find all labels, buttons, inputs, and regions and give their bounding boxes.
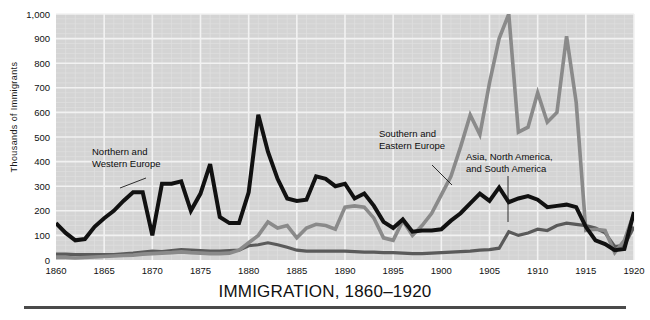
y-tick-label: 600 [34,107,50,118]
chart-plot-area: 01002003004005006007008009001,000 186018… [0,0,650,282]
annotation-text: Northern and [92,146,147,157]
x-tick-label: 1875 [190,265,211,276]
x-axis-ticks: 1860186518701875188018851890189519001905… [45,265,644,276]
y-tick-label: 100 [34,230,50,241]
x-tick-label: 1870 [142,265,163,276]
y-tick-label: 0 [45,255,50,266]
annotation-text: and South America [466,163,547,174]
x-tick-label: 1905 [479,265,500,276]
y-tick-label: 800 [34,58,50,69]
x-tick-label: 1900 [431,265,452,276]
annotation-text: Eastern Europe [379,140,445,151]
y-tick-label: 700 [34,82,50,93]
x-tick-label: 1880 [238,265,259,276]
x-tick-label: 1860 [45,265,66,276]
y-tick-label: 1,000 [26,9,50,20]
chart-title: IMMIGRATION, 1860–1920 [0,282,650,302]
y-tick-label: 900 [34,33,50,44]
x-tick-label: 1895 [383,265,404,276]
annotation-text: Western Europe [92,158,160,169]
x-tick-label: 1885 [286,265,307,276]
x-tick-label: 1920 [623,265,644,276]
immigration-line-chart-figure: Thousands of Immigrants 0100200300400500… [0,0,650,320]
y-tick-label: 500 [34,132,50,143]
y-axis-ticks: 01002003004005006007008009001,000 [26,9,50,266]
annotation-text: Asia, North America, [466,151,553,162]
x-tick-label: 1865 [94,265,115,276]
y-tick-label: 300 [34,181,50,192]
bottom-rule [24,306,626,309]
y-tick-label: 400 [34,156,50,167]
x-tick-label: 1915 [575,265,596,276]
y-tick-label: 200 [34,205,50,216]
x-tick-label: 1910 [527,265,548,276]
x-tick-label: 1890 [334,265,355,276]
annotation-text: Southern and [379,128,436,139]
